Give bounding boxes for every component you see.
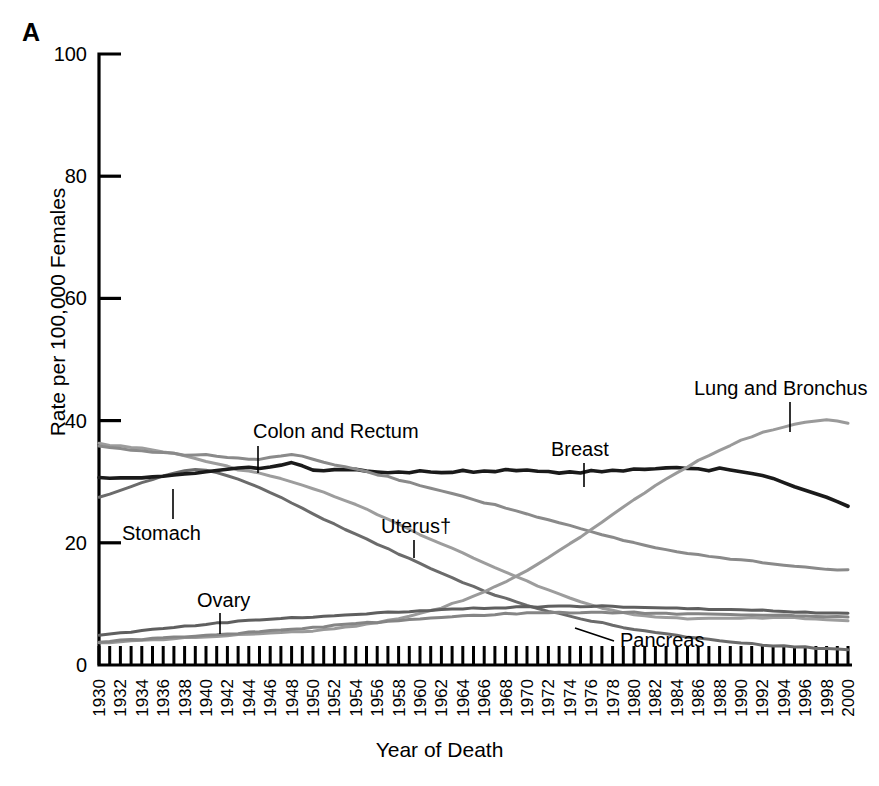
annotation-stomach: Stomach	[122, 522, 201, 544]
annotation-pancreas: Pancreas	[620, 629, 705, 651]
x-tick-label: 1952	[325, 679, 344, 717]
annotation-breast: Breast	[551, 438, 609, 460]
annotation-lung-and-bronchus: Lung and Bronchus	[694, 377, 867, 399]
x-tick-label: 1932	[111, 679, 130, 717]
x-tick-label: 1962	[432, 679, 451, 717]
y-tick-label: 0	[76, 654, 87, 676]
x-tick-label: 1938	[176, 679, 195, 717]
x-tick-label: 1976	[582, 679, 601, 717]
x-tick-label: 1970	[518, 679, 537, 717]
series-line-colon-and-rectum	[99, 446, 848, 570]
x-tick-label: 1968	[497, 679, 516, 717]
x-tick-label: 1964	[454, 679, 473, 717]
x-tick-label: 1956	[368, 679, 387, 717]
x-tick-label: 1966	[475, 679, 494, 717]
x-tick-label: 1988	[711, 679, 730, 717]
line-chart: 1008060402001930193219341936193819401942…	[0, 0, 879, 740]
x-tick-label: 1980	[625, 679, 644, 717]
x-tick-label: 1990	[732, 679, 751, 717]
x-tick-label: 1948	[283, 679, 302, 717]
x-tick-label: 1972	[539, 679, 558, 717]
x-tick-label: 1954	[347, 679, 366, 717]
x-tick-label: 1998	[818, 679, 837, 717]
x-axis-title: Year of Death	[0, 738, 879, 762]
x-tick-label: 1958	[390, 679, 409, 717]
panel-label: A	[22, 18, 40, 47]
x-tick-label: 1978	[604, 679, 623, 717]
x-tick-label: 1984	[668, 679, 687, 717]
annotation-uterus: Uterus†	[381, 515, 451, 537]
x-tick-label: 1930	[90, 679, 109, 717]
x-tick-label: 1946	[261, 679, 280, 717]
x-tick-label: 2000	[839, 679, 858, 717]
x-tick-label: 1974	[561, 679, 580, 717]
x-tick-label: 1940	[197, 679, 216, 717]
y-tick-label: 100	[54, 43, 87, 65]
y-axis-title: Rate per 100,000 Females	[46, 162, 70, 462]
x-tick-label: 1934	[133, 679, 152, 717]
x-tick-label: 1982	[646, 679, 665, 717]
x-tick-label: 1942	[218, 679, 237, 717]
annotation-colon-and-rectum: Colon and Rectum	[253, 420, 419, 442]
leader-line-pancreas	[575, 628, 614, 641]
x-tick-label: 1960	[411, 679, 430, 717]
x-tick-label: 1994	[775, 679, 794, 717]
annotation-ovary: Ovary	[197, 589, 250, 611]
series-lines	[99, 420, 848, 650]
x-tick-label: 1944	[240, 679, 259, 717]
x-tick-label: 1936	[154, 679, 173, 717]
figure-panel-a: A 10080604020019301932193419361938194019…	[0, 0, 879, 786]
x-tick-label: 1996	[796, 679, 815, 717]
x-tick-label: 1950	[304, 679, 323, 717]
y-tick-label: 20	[65, 532, 87, 554]
x-tick-label: 1986	[689, 679, 708, 717]
x-tick-label: 1992	[753, 679, 772, 717]
